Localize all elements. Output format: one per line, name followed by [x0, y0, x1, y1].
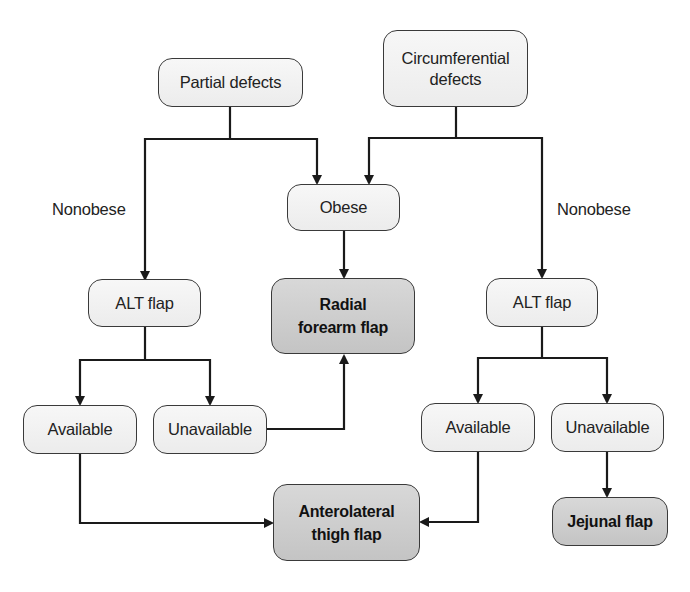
node-partial-defects: Partial defects	[158, 58, 303, 107]
node-anterolateral-thigh-flap: Anterolateral thigh flap	[273, 484, 420, 561]
node-partial-defects-label: Partial defects	[180, 72, 282, 93]
node-anterolateral-thigh-flap-label-1: Anterolateral	[298, 500, 394, 523]
node-unavailable-right-label: Unavailable	[565, 417, 649, 438]
node-circumferential-defects-label-1: Circumferential	[402, 48, 510, 69]
node-unavailable-left: Unavailable	[153, 405, 267, 454]
node-unavailable-left-label: Unavailable	[168, 419, 252, 440]
node-alt-flap-right-label: ALT flap	[513, 292, 571, 313]
node-available-left: Available	[23, 405, 137, 454]
node-alt-flap-left-label: ALT flap	[115, 293, 173, 314]
node-anterolateral-thigh-flap-label-2: thigh flap	[312, 523, 382, 546]
node-available-left-label: Available	[48, 419, 113, 440]
node-radial-forearm-flap-label-2: forearm flap	[298, 316, 388, 339]
edge-available-right-to-thigh	[421, 452, 478, 522]
node-radial-forearm-flap: Radial forearm flap	[271, 278, 415, 354]
edge-partial-to-alt-left	[145, 139, 230, 279]
node-obese: Obese	[287, 184, 400, 231]
node-obese-label: Obese	[320, 197, 368, 218]
edge-label-nonobese-left: Nonobese	[52, 200, 126, 219]
node-jejunal-flap: Jejunal flap	[552, 497, 668, 546]
edge-circ-to-obese	[369, 138, 456, 183]
node-available-right-label: Available	[446, 417, 511, 438]
edge-unavailable-left-to-radial	[267, 356, 344, 429]
node-available-right: Available	[421, 403, 535, 452]
edge-circ-to-alt-right	[456, 138, 542, 277]
node-jejunal-flap-label: Jejunal flap	[567, 510, 653, 533]
node-circumferential-defects-label-2: defects	[430, 69, 482, 90]
node-unavailable-right: Unavailable	[551, 403, 664, 452]
edge-partial-to-obese	[230, 139, 317, 183]
node-alt-flap-left: ALT flap	[88, 279, 201, 327]
node-alt-flap-right: ALT flap	[486, 278, 598, 327]
node-radial-forearm-flap-label-1: Radial	[320, 293, 367, 316]
node-circumferential-defects: Circumferential defects	[383, 30, 528, 107]
edge-available-left-to-thigh	[80, 454, 272, 523]
edge-label-nonobese-right: Nonobese	[557, 200, 631, 219]
